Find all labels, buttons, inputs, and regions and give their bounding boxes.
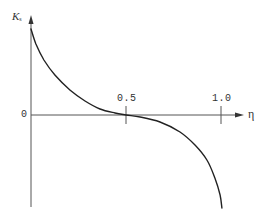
y-axis-label-sub: s xyxy=(19,16,21,22)
chart-figure: Ks η 0 0.5 1.0 xyxy=(0,0,266,223)
x-tick-label-0.5: 0.5 xyxy=(117,94,137,104)
y-axis-arrow-icon xyxy=(29,15,34,24)
x-axis-arrow-icon xyxy=(235,113,244,118)
origin-label: 0 xyxy=(21,110,28,120)
x-axis-label: η xyxy=(248,108,254,120)
y-axis-label: Ks xyxy=(12,11,22,22)
x-tick-label-1.0: 1.0 xyxy=(212,94,232,104)
plot-area xyxy=(0,0,266,223)
